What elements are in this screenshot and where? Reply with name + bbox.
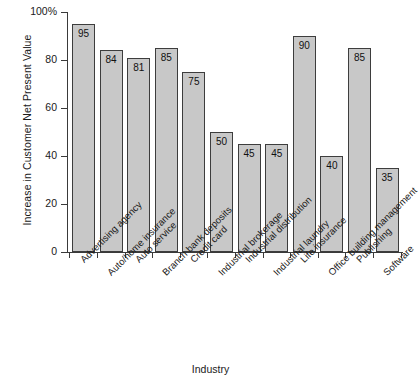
bar-value-label: 85 bbox=[156, 52, 177, 63]
y-tick-label: 100% bbox=[30, 5, 57, 17]
bar: 85 bbox=[348, 48, 371, 252]
y-tick-label: 20 bbox=[45, 197, 57, 209]
bar: 90 bbox=[293, 36, 316, 252]
x-axis-title: Industry bbox=[0, 363, 415, 375]
x-axis-title-text: Industry bbox=[192, 363, 229, 375]
y-tick-label: 80 bbox=[45, 53, 57, 65]
y-tick-label: 40 bbox=[45, 149, 57, 161]
bar: 81 bbox=[127, 58, 150, 252]
bar-value-label: 95 bbox=[73, 28, 94, 39]
bar: 95 bbox=[72, 24, 95, 252]
bar-value-label: 45 bbox=[239, 148, 260, 159]
y-tick-label: 0 bbox=[51, 245, 57, 257]
bar-value-label: 85 bbox=[349, 52, 370, 63]
bar-value-label: 45 bbox=[266, 148, 287, 159]
bar-value-label: 35 bbox=[377, 172, 398, 183]
y-axis-title: Increase in Customer Net Present Value bbox=[21, 8, 33, 253]
bar-value-label: 81 bbox=[128, 62, 149, 73]
bar-value-label: 75 bbox=[183, 76, 204, 87]
bar: 75 bbox=[182, 72, 205, 252]
y-tick-label: 60 bbox=[45, 101, 57, 113]
bar-value-label: 50 bbox=[211, 136, 232, 147]
bar-value-label: 90 bbox=[294, 40, 315, 51]
bar-value-label: 84 bbox=[101, 54, 122, 65]
x-axis-category-labels: Advertising agencyAuto/home insuranceAut… bbox=[67, 253, 415, 358]
bar-value-label: 40 bbox=[321, 160, 342, 171]
